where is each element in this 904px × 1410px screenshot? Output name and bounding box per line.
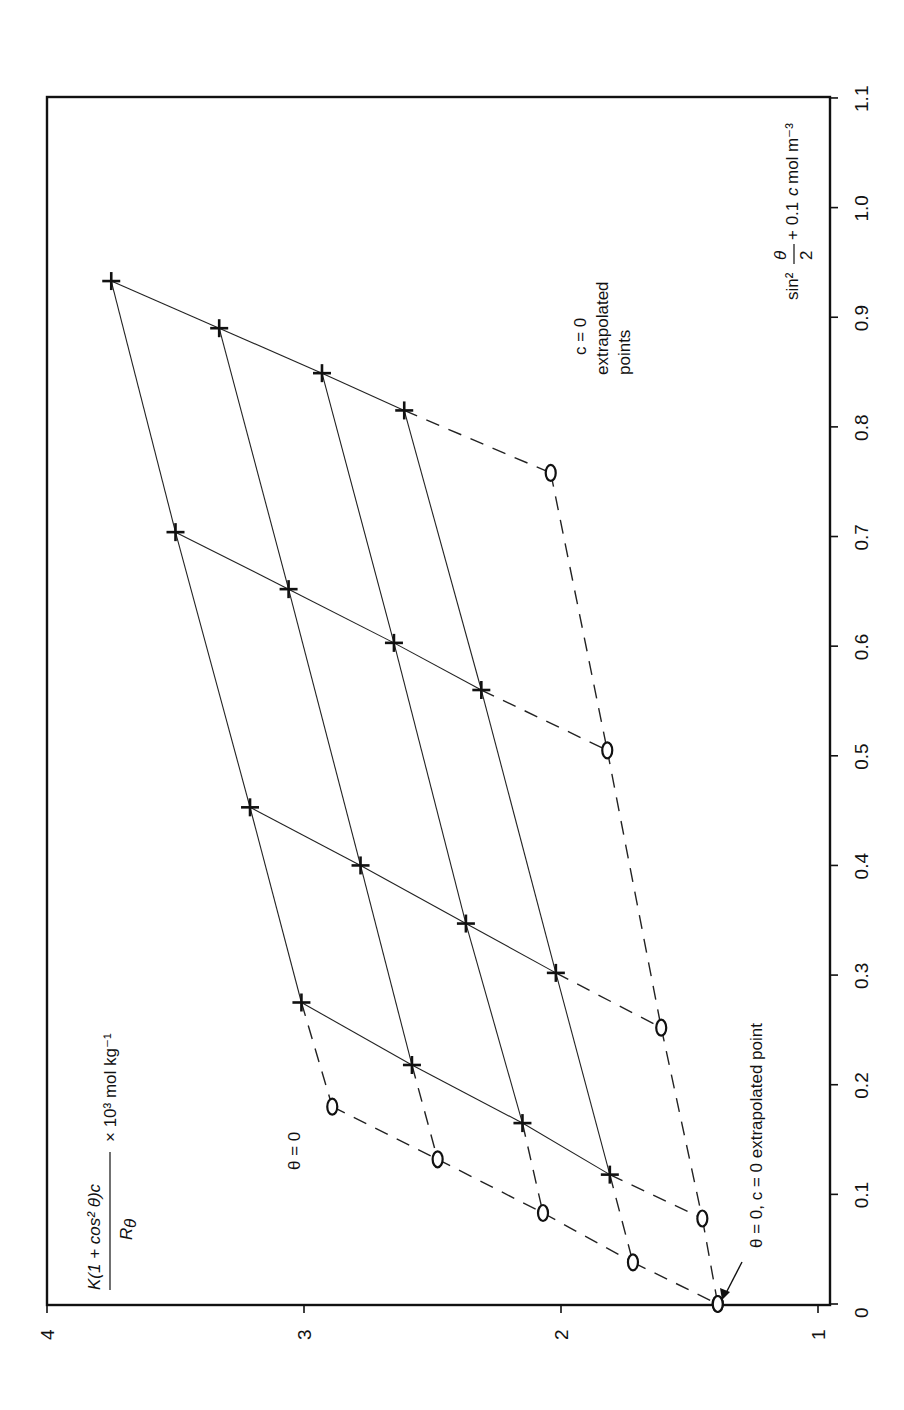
- circle-marker-icon: [433, 1151, 443, 1167]
- y-tick-label: 1: [808, 1329, 829, 1340]
- dashed-line: [633, 1262, 718, 1304]
- plot-frame: [47, 97, 830, 1305]
- solid-line: [322, 373, 404, 410]
- solid-line: [481, 690, 556, 973]
- dashed-line: [481, 690, 607, 750]
- svg-text:θ: θ: [121, 1218, 140, 1228]
- circle-marker-icon: [713, 1296, 723, 1312]
- y-axis-label: K(1 + cos² θ)c Rθ × 10³ mol kg⁻¹: [85, 1033, 140, 1290]
- dashed-line: [702, 1218, 717, 1304]
- data-markers: [102, 272, 723, 1312]
- svg-text:sin²: sin²: [783, 272, 802, 300]
- solid-line: [250, 807, 301, 1002]
- circle-marker-icon: [538, 1205, 548, 1221]
- solid-line: [250, 807, 361, 865]
- circle-marker-icon: [656, 1020, 666, 1036]
- solid-line: [322, 373, 394, 643]
- y-tick-label: 4: [37, 1329, 58, 1340]
- dashed-line: [332, 1107, 437, 1160]
- solid-line: [361, 865, 412, 1065]
- theta-zero-label: θ = 0: [285, 1132, 304, 1170]
- solid-line: [394, 643, 481, 690]
- svg-text:K(1 + cos² θ)c: K(1 + cos² θ)c: [85, 1183, 104, 1290]
- svg-text:× 10³ mol kg⁻¹: × 10³ mol kg⁻¹: [101, 1033, 120, 1142]
- dashed-line: [438, 1159, 543, 1213]
- solid-line: [466, 924, 523, 1124]
- origin-arrow: [725, 1262, 742, 1295]
- svg-text:+ 0.1: + 0.1: [783, 202, 802, 240]
- grid-lines: [111, 281, 718, 1304]
- y-tick-label: 2: [551, 1329, 572, 1340]
- origin-note: θ = 0, c = 0 extrapolated point: [747, 1023, 766, 1248]
- solid-line: [361, 865, 466, 923]
- solid-line: [111, 281, 175, 532]
- circle-marker-icon: [697, 1210, 707, 1226]
- svg-text:mol m⁻³: mol m⁻³: [783, 123, 802, 184]
- x-tick-label: 0.5: [851, 743, 872, 769]
- solid-line: [111, 281, 219, 328]
- x-tick-label: 1.1: [851, 86, 872, 112]
- dashed-line: [522, 1123, 543, 1213]
- dashed-line: [661, 1028, 702, 1219]
- solid-line: [412, 1065, 523, 1123]
- solid-line: [289, 589, 394, 643]
- dashed-line: [543, 1213, 633, 1262]
- solid-line: [404, 410, 481, 690]
- dashed-line: [412, 1065, 438, 1159]
- x-tick-label: 0.4: [851, 853, 872, 880]
- dashed-line: [404, 410, 550, 472]
- solid-line: [219, 328, 322, 373]
- c-zero-annotation: c = 0 extrapolated points: [571, 281, 634, 375]
- circle-marker-icon: [327, 1099, 337, 1115]
- dashed-line: [610, 1175, 633, 1263]
- solid-line: [522, 1123, 609, 1175]
- svg-text:R: R: [117, 1228, 136, 1240]
- solid-line: [394, 643, 466, 924]
- points-label: points: [615, 330, 634, 375]
- dashed-line: [301, 1002, 332, 1106]
- x-tick-label: 0.2: [851, 1072, 872, 1098]
- circle-marker-icon: [546, 465, 556, 481]
- dashed-line: [610, 1175, 703, 1219]
- y-tick-label: 3: [294, 1329, 315, 1340]
- solid-line: [219, 328, 288, 589]
- solid-line: [176, 532, 289, 589]
- dashed-line: [556, 973, 661, 1028]
- x-tick-label: 0: [851, 1307, 872, 1318]
- x-tick-label: 0.8: [851, 414, 872, 440]
- solid-line: [176, 532, 251, 807]
- solid-line: [289, 589, 361, 865]
- solid-line: [466, 924, 556, 973]
- c-zero-label: c = 0: [571, 318, 590, 355]
- x-tick-label: 0.9: [851, 305, 872, 331]
- x-tick-label: 1.0: [851, 195, 872, 221]
- circle-marker-icon: [628, 1254, 638, 1270]
- solid-line: [556, 973, 610, 1175]
- solid-line: [301, 1002, 412, 1064]
- dashed-line: [607, 750, 661, 1027]
- svg-text:c: c: [783, 187, 802, 196]
- svg-text:θ: θ: [771, 250, 790, 260]
- x-tick-label: 0.7: [851, 524, 872, 550]
- x-tick-label: 0.6: [851, 634, 872, 660]
- x-axis-label: sin² θ 2 + 0.1c mol m⁻³: [771, 123, 816, 300]
- x-tick-label: 0.1: [851, 1182, 872, 1208]
- dashed-line: [551, 473, 608, 750]
- svg-text:2: 2: [797, 251, 816, 260]
- x-tick-label: 0.3: [851, 963, 872, 989]
- zimm-plot: 00.10.20.30.40.50.60.70.80.91.01.11234 K…: [0, 0, 904, 1410]
- extrapolated-label: extrapolated: [593, 281, 612, 375]
- circle-marker-icon: [602, 742, 612, 758]
